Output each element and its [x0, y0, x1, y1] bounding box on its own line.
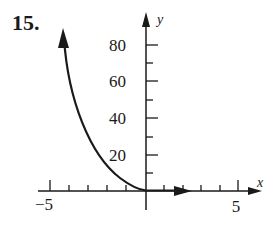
y-axis-arrow-icon	[142, 12, 150, 27]
x-tick-label-5: 5	[232, 197, 241, 216]
x-tick-label-neg5: −5	[35, 195, 53, 214]
y-tick-label-80: 80	[109, 36, 126, 55]
y-axis	[142, 12, 158, 210]
x-axis	[38, 180, 262, 195]
curve-arrow-up-icon	[58, 28, 69, 48]
x-axis-label: x	[256, 175, 264, 190]
y-tick-label-40: 40	[109, 109, 126, 128]
y-axis-label: y	[155, 12, 164, 27]
y-ticks	[146, 45, 158, 173]
y-tick-label-20: 20	[109, 146, 126, 165]
exponential-graph: 80 60 40 20 −5 5 y x	[0, 0, 277, 235]
y-tick-label-60: 60	[109, 72, 126, 91]
